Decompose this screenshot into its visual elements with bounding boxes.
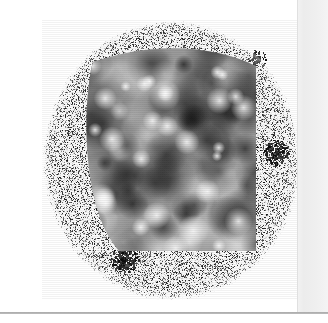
solar-disk (42, 20, 300, 300)
figure-root: Solar disk speckle and supergranulation … (0, 0, 328, 323)
right-panel-edge (297, 0, 298, 313)
supergranulation-blob-layer (42, 20, 300, 300)
bottom-rule (0, 312, 328, 314)
right-occluding-panel (298, 0, 328, 313)
bottom-margin-area (0, 314, 328, 323)
